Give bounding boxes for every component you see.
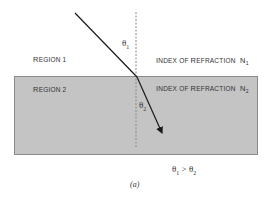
region-2-index-label: INDEX OF REFRACTION: [156, 84, 236, 93]
region-1-index-label: INDEX OF REFRACTION: [156, 56, 236, 65]
figure-caption: (a): [130, 180, 139, 189]
n2-label: N2: [240, 84, 249, 94]
theta-2-label: θ2: [139, 100, 146, 112]
angle-relation: θ1 > θ2: [172, 164, 196, 176]
region-1-label: REGION 1: [33, 55, 66, 64]
theta-1-label: θ1: [122, 38, 129, 50]
refraction-diagram: REGION 1 INDEX OF REFRACTION N1 REGION 2…: [0, 0, 272, 199]
n1-label: N1: [240, 56, 249, 66]
diagram-graphics: [0, 0, 272, 199]
region-2-label: REGION 2: [33, 85, 66, 94]
